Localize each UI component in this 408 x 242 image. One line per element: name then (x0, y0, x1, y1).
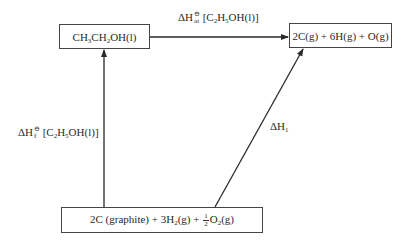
gaseous-atoms-node: 2C(g) + 6H(g) + O(g) (289, 23, 392, 48)
delta-h1-label: ΔH1 (270, 120, 289, 132)
formation-enthalpy-label: ΔH⊖f [C2H5OH(l)] (18, 126, 99, 140)
elements-node: 2C (graphite) + 3H2(g) + 12O2(g) (61, 207, 263, 233)
atomisation-enthalpy-label: ΔH⊖at [C2H5OH(l)] (178, 11, 259, 25)
half-fraction: 12 (203, 213, 209, 228)
elements-formula: 2C (graphite) + 3H2(g) + 12O2(g) (90, 213, 234, 228)
gaseous-atoms-formula: 2C(g) + 6H(g) + O(g) (292, 30, 388, 42)
route1-arrow (215, 49, 303, 207)
hess-cycle-diagram: CH3CH2OH(l) 2C(g) + 6H(g) + O(g) 2C (gra… (0, 0, 408, 242)
ethanol-node: CH3CH2OH(l) (59, 24, 150, 49)
ethanol-formula: CH3CH2OH(l) (73, 31, 137, 43)
